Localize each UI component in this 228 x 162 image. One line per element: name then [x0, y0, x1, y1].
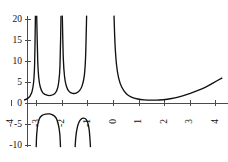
function-plot: 20151050-5-10-4-3-2-101234: [0, 0, 228, 162]
curve-branch: [62, 16, 86, 94]
y-tick-label: -5: [14, 119, 22, 129]
y-tick-label: 5: [17, 77, 22, 87]
x-tick-label: -4: [5, 119, 15, 127]
x-tick-label: 3: [184, 119, 194, 124]
curve-branch: [37, 16, 61, 96]
y-tick-label: 0: [17, 98, 22, 108]
chart-figure: 20151050-5-10-4-3-2-101234: [0, 0, 228, 162]
curve-branch: [36, 114, 60, 147]
y-tick-label: 10: [13, 56, 23, 66]
x-tick-label: 4: [210, 119, 220, 124]
x-tick-label: -2: [56, 119, 66, 127]
x-tick-label: -1: [82, 119, 92, 127]
y-tick-label: 15: [13, 35, 23, 45]
y-tick-label: -10: [9, 140, 22, 150]
x-tick-label: 0: [108, 119, 118, 124]
x-tick-label: -3: [31, 119, 41, 127]
x-tick-label: 2: [159, 119, 169, 124]
curve-branch: [114, 16, 222, 101]
x-tick-label: 1: [133, 119, 143, 124]
y-tick-label: 20: [13, 14, 23, 24]
